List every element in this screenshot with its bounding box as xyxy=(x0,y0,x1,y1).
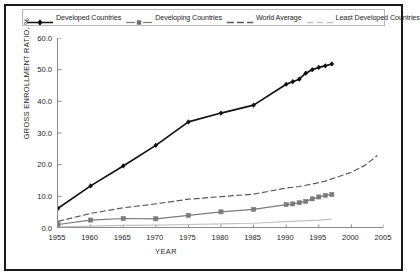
x-tick-label: 2000 xyxy=(332,233,368,242)
legend-swatch-dashed-icon xyxy=(227,13,253,22)
x-tick-label: 1990 xyxy=(267,233,303,242)
legend-item-least-developed-countries: Least Developed Countries xyxy=(307,13,420,22)
x-tick-label: 1970 xyxy=(137,233,173,242)
x-tick-label: 1995 xyxy=(300,233,336,242)
y-tick-label: 20.0 xyxy=(20,160,52,169)
legend-label: Developing Countries xyxy=(155,13,222,22)
series-line xyxy=(58,219,332,227)
legend-swatch-solid-diamond-icon xyxy=(27,13,53,22)
x-tick-label: 1975 xyxy=(169,233,205,242)
legend-label: Least Developed Countries xyxy=(336,13,420,22)
legend-item-developed-countries: Developed Countries xyxy=(27,13,121,22)
y-axis-title: GROSS ENROLLMENT RATIO, % xyxy=(22,9,31,149)
y-tick-label: 0.0 xyxy=(20,224,52,233)
x-tick-label: 1960 xyxy=(72,233,108,242)
y-tick-label: 10.0 xyxy=(20,192,52,201)
x-tick-label: 1980 xyxy=(202,233,238,242)
legend-label: Developed Countries xyxy=(56,13,121,22)
legend-label: World Average xyxy=(256,13,302,22)
x-axis-title: YEAR xyxy=(155,247,177,256)
legend-swatch-solid-square-icon xyxy=(126,13,152,22)
legend-item-world-average: World Average xyxy=(227,13,302,22)
series-line xyxy=(58,64,332,208)
x-tick-label: 2005 xyxy=(365,233,401,242)
chart-legend: Developed Countries Developing Countries… xyxy=(22,9,385,26)
legend-swatch-light-icon xyxy=(307,13,333,22)
plot-area xyxy=(57,38,383,228)
x-tick-label: 1985 xyxy=(235,233,271,242)
x-tick-label: 1955 xyxy=(39,233,75,242)
y-tick-label: 40.0 xyxy=(20,97,52,106)
series-line xyxy=(58,155,377,221)
y-tick-label: 30.0 xyxy=(20,129,52,138)
y-tick-label: 50.0 xyxy=(20,65,52,74)
x-tick-label: 1965 xyxy=(104,233,140,242)
y-tick-label: 60.0 xyxy=(20,34,52,43)
legend-item-developing-countries: Developing Countries xyxy=(126,13,222,22)
plot-canvas xyxy=(58,38,384,228)
